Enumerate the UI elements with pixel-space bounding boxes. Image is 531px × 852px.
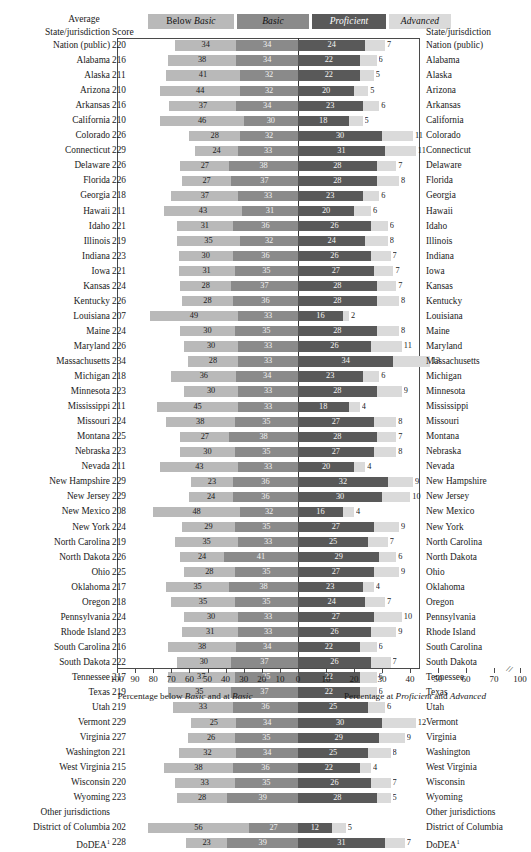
segment-basic: 36 [233, 477, 298, 487]
segment-advanced-value: 5 [393, 793, 407, 803]
chart-row: Indiana2233036267Indiana [0, 249, 520, 264]
tick-right-70-mark [494, 668, 495, 673]
segment-basic: 38 [229, 582, 298, 592]
tick-left-40-mark [226, 668, 227, 673]
chart-row: Idaho2213136266Idaho [0, 219, 520, 234]
segment-proficient: 23 [298, 371, 363, 381]
chart-row: Nation (public)2203434247Nation (public) [0, 38, 520, 53]
segment-advanced [368, 748, 390, 758]
segment-proficient: 28 [298, 176, 377, 186]
segment-proficient: 22 [298, 642, 360, 652]
segment-below-basic: 27 [180, 161, 229, 171]
segment-below-basic: 29 [182, 522, 234, 532]
segment-basic: 35 [235, 733, 298, 743]
segment-advanced-value: 9 [398, 627, 412, 637]
segment-advanced-value: 6 [387, 702, 401, 712]
row-state-label-right: Rhode Island [426, 626, 520, 638]
legend-item-basic: Basic [237, 14, 309, 29]
row-state-label-right: Mississippi [426, 400, 520, 412]
row-state-label-right: California [426, 114, 520, 126]
segment-advanced [349, 402, 360, 412]
group-heading-row: Other jurisdictionsOther jurisdictions [0, 805, 520, 820]
chart-row: Oklahoma2173538234Oklahoma [0, 580, 520, 595]
chart-rows: Nation (public)2203434247Nation (public)… [0, 38, 520, 851]
row-state-label-right: Nevada [426, 460, 520, 472]
segment-advanced [360, 642, 377, 652]
segment-proficient: 30 [298, 492, 382, 502]
segment-basic: 36 [233, 251, 298, 261]
chart-row: Maine2243035288Maine [0, 324, 520, 339]
segment-advanced-value: 9 [407, 733, 421, 743]
segment-advanced [377, 793, 391, 803]
segment-below-basic: 37 [169, 101, 236, 111]
row-state-label-right: Alaska [426, 69, 520, 81]
chart-row: DoDEA12282339317DoDEA1 [0, 835, 520, 850]
segment-advanced-value: 4 [367, 462, 381, 472]
segment-advanced [385, 146, 416, 156]
segment-below-basic: 27 [180, 432, 229, 442]
segment-basic: 39 [227, 793, 298, 803]
chart-row: Pennsylvania22430332710Pennsylvania [0, 610, 520, 625]
segment-basic: 32 [240, 507, 298, 517]
segment-below-basic: 36 [171, 371, 236, 381]
legend-item-proficient: Proficient [312, 14, 386, 29]
segment-advanced-value: 6 [379, 55, 393, 65]
chart-row: Arkansas2163734236Arkansas [0, 98, 520, 113]
segment-proficient: 20 [298, 206, 354, 216]
tick-left-100-mark [117, 668, 118, 673]
segment-advanced [368, 702, 385, 712]
segment-below-basic: 38 [168, 55, 237, 65]
segment-basic: 39 [227, 838, 298, 848]
segment-below-basic: 35 [166, 582, 229, 592]
segment-basic: 33 [238, 341, 298, 351]
row-state-label-right: Kansas [426, 280, 520, 292]
segment-proficient: 22 [298, 70, 360, 80]
segment-below-basic: 28 [184, 567, 235, 577]
segment-advanced-value: 6 [398, 552, 412, 562]
segment-advanced-value: 7 [393, 251, 407, 261]
segment-below-basic: 25 [191, 718, 236, 728]
segment-below-basic: 37 [171, 191, 238, 201]
segment-advanced [385, 838, 405, 848]
chart-row: New Mexico2084832164New Mexico [0, 504, 520, 519]
segment-advanced [360, 763, 371, 773]
segment-proficient: 26 [298, 657, 371, 667]
segment-proficient: 16 [298, 507, 343, 517]
x-axis-caption-right: Percentage at Proficient and Advanced [300, 690, 530, 702]
segment-basic: 30 [244, 116, 298, 126]
segment-proficient: 27 [298, 417, 374, 427]
segment-below-basic: 33 [173, 702, 233, 712]
segment-advanced [368, 537, 388, 547]
header-average: Average [58, 14, 110, 25]
segment-advanced [360, 55, 377, 65]
segment-basic: 33 [238, 537, 298, 547]
header-state-left: State/jurisdiction [2, 27, 110, 38]
legend: Below Basic Basic Proficient Advanced [148, 14, 451, 29]
row-state-label-right: New Mexico [426, 505, 520, 517]
segment-below-basic: 56 [148, 823, 249, 833]
segment-advanced-value: 5 [365, 116, 379, 126]
segment-proficient: 27 [298, 612, 374, 622]
tick-right-30-label: 30 [370, 674, 394, 685]
chart-row: Kentucky2262836288Kentucky [0, 294, 520, 309]
segment-advanced [343, 507, 354, 517]
segment-below-basic: 38 [164, 763, 233, 773]
chart-row: Nebraska2233035278Nebraska [0, 444, 520, 459]
chart-row: Vermont22925343012Vermont [0, 715, 520, 730]
segment-basic: 38 [229, 432, 298, 442]
tick-left-70-mark [171, 668, 172, 673]
chart-row: Utah2193336256Utah [0, 700, 520, 715]
segment-proficient: 28 [298, 793, 377, 803]
segment-basic: 33 [238, 356, 298, 366]
tick-right-50-mark [438, 668, 439, 673]
segment-proficient: 24 [298, 236, 365, 246]
tick-right-40-mark [410, 668, 411, 673]
segment-advanced-value: 6 [381, 371, 395, 381]
segment-advanced [382, 492, 410, 502]
row-state-label-right: West Virginia [426, 761, 520, 773]
segment-below-basic: 44 [160, 86, 240, 96]
segment-below-basic: 30 [184, 341, 238, 351]
row-state-label-right: Other jurisdictions [426, 806, 520, 818]
chart-row: Wyoming2232839285Wyoming [0, 790, 520, 805]
segment-below-basic: 31 [179, 266, 235, 276]
